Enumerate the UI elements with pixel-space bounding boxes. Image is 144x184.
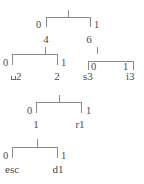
level-4-left-drop — [12, 147, 13, 158]
level-2-left-edge-label-1: 1 — [61, 57, 66, 68]
level-2-right-node-right: i3 — [126, 71, 135, 82]
level-3-crossbar — [36, 102, 82, 103]
level-4-node-right: d1 — [53, 164, 64, 175]
binary-code-tree-diagram: 0 1 4 6 0 1 2 2 0 1 s3 i3 0 1 1 r1 0 1 e… — [0, 0, 144, 184]
level-3-node-right: r1 — [75, 119, 84, 130]
level-2-left-crossbar — [12, 54, 58, 55]
level-4-edge-label-1: 1 — [61, 150, 66, 161]
level-2-left-node-right: 2 — [54, 71, 60, 82]
level-3-edge-label-0: 0 — [27, 105, 32, 116]
level-2-right-parent-stem — [97, 47, 98, 54]
level-1-edge-label-1: 1 — [94, 19, 99, 30]
level-3-edge-label-1: 1 — [86, 105, 91, 116]
level-3-right-drop — [81, 102, 82, 113]
level-4-parent-stem — [37, 139, 38, 147]
level-2-left-parent-stem — [45, 47, 46, 54]
level-4-right-drop — [57, 147, 58, 158]
level-1-edge-label-0: 0 — [36, 19, 41, 30]
level-4-crossbar — [12, 147, 58, 148]
level-3-left-drop — [36, 102, 37, 113]
level-1-parent-stem — [68, 10, 69, 17]
blank-space-symbol-icon — [11, 71, 16, 80]
level-2-left-right-drop — [57, 54, 58, 65]
level-2-right-right-drop — [133, 61, 134, 70]
level-1-left-drop — [46, 17, 47, 27]
level-2-left-edge-label-0: 0 — [3, 57, 8, 68]
level-4-node-left: esc — [5, 164, 19, 175]
level-2-right-left-drop — [88, 61, 89, 70]
level-3-node-left: 1 — [33, 119, 39, 130]
level-2-left-node-left: 2 — [11, 71, 22, 82]
level-3-parent-stem — [59, 95, 60, 102]
level-2-left-left-drop — [12, 54, 13, 65]
level-2-right-node-left: s3 — [83, 71, 93, 82]
level-1-right-drop — [90, 17, 91, 27]
level-1-node-right: 6 — [86, 34, 92, 45]
level-1-crossbar — [46, 17, 91, 18]
level-2-left-node-left-text: 2 — [16, 70, 22, 82]
level-1-node-left: 4 — [43, 34, 49, 45]
level-4-edge-label-0: 0 — [3, 150, 8, 161]
